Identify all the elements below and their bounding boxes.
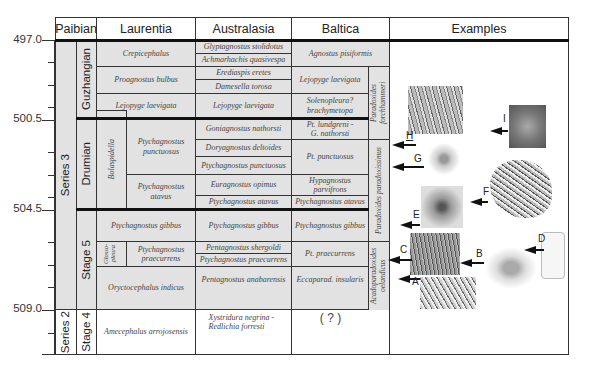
label-e: E: [413, 209, 420, 220]
australasia-zone: Glyptagnostus stolidotus: [195, 40, 292, 54]
arrow-shaft: [536, 249, 544, 251]
boundary-500-5: [76, 117, 369, 120]
arrowhead-icon: [392, 163, 404, 171]
zone-label: Pt. lundgreni - G. nathorsti: [303, 120, 358, 138]
zone-label: Pt. punctuosus: [306, 152, 353, 161]
arrowhead-icon: [398, 275, 410, 283]
stage-drumian: Drumian: [76, 118, 97, 209]
zone-label: Proagnostus bulbus: [114, 75, 178, 84]
age-label-504-5: 504.5: [2, 202, 42, 214]
zone-label: Pentagnostus anabarensis: [202, 275, 286, 284]
baltica-superzone-paradoxissimus: Paradoxides paradoxissimus: [368, 139, 390, 242]
header-australasia-label: Australasia: [213, 22, 275, 36]
arrow-g: [392, 163, 424, 171]
tick: [42, 310, 55, 311]
laurentia-zone-ptychagnostus-atavus: Ptychagnostus atavus: [126, 174, 196, 209]
age-label-500-5: 500.5: [2, 112, 42, 124]
tick: [48, 287, 55, 288]
label-a: A: [412, 276, 419, 287]
zone-label: Ptychagnostus praecurrens: [200, 255, 287, 264]
baltica-zone-unknown: ( ? ): [291, 309, 390, 355]
laurentia-zone-ptychagnostus-praecurrens: Ptychagnostus praecurrens: [126, 241, 196, 267]
zone-label: Ptychagnostus punctuosus: [129, 137, 193, 155]
arrowhead-icon: [490, 127, 502, 135]
arrow-shaft: [404, 144, 416, 146]
laurentia-zone-amecephalus-arrojosensis: Amecephalus arrojosensis: [96, 309, 196, 355]
australasia-zone: Ptychagnostus gibbus: [195, 209, 292, 242]
tick: [48, 175, 55, 176]
header-paibian: Paibian: [55, 17, 97, 40]
arrow-shaft: [502, 130, 508, 132]
laurentia-zone-bolaspidella: Bolaspidella: [96, 110, 127, 209]
zone-label: Lejopyge laevigata: [213, 101, 274, 110]
arrow-shaft: [472, 262, 484, 264]
label-i: I: [503, 113, 506, 124]
tick: [42, 210, 55, 211]
label-g: G: [414, 153, 422, 164]
stage-guzhangian: Guzhangian: [76, 40, 97, 118]
zone-label: Glosso-pleura: [102, 242, 122, 266]
laurentia-zone-ptychagnostus-gibbus: Ptychagnostus gibbus: [96, 209, 196, 242]
arrow-f: [470, 198, 488, 206]
arrow-h: [392, 141, 416, 149]
series-3-label: Series 3: [59, 154, 72, 196]
zone-label: Glyptagnostus stolidotus: [204, 42, 283, 51]
zone-label: Ptychagnostus gibbus: [209, 221, 279, 230]
australasia-zone: Ptychagnostus punctuosus: [195, 156, 292, 175]
baltica-zone: Pt. lundgreni - G. nathorsti: [291, 118, 369, 140]
zone-label: Pentagnostus shergoldi: [206, 243, 281, 252]
arrowhead-icon: [400, 221, 412, 229]
zone-label: Ptychagnostus punctuosus: [201, 161, 286, 170]
fossil-image-forchhammeri: [408, 86, 463, 134]
zone-label: Achmarhachis quasivespa: [202, 55, 286, 64]
arrow-b: [460, 259, 484, 267]
australasia-zone: Pentagnostus anabarensis: [195, 266, 292, 294]
label-c: C: [400, 244, 407, 255]
zone-label: Oryctocephalus indicus: [108, 283, 184, 292]
australasia-zone: Ptychagnostus praecurrens: [195, 253, 292, 267]
baltica-zone: Ptychagnostus atavus: [291, 195, 369, 209]
laurentia-zone-glossopleura: Glosso-pleura: [96, 241, 127, 267]
australasia-zone: Doryagnostus deltoides: [195, 139, 292, 157]
zone-label: Pt. praecurrens: [305, 249, 355, 258]
arrow-shaft: [412, 224, 420, 226]
australasia-zone: Erediaspis eretes: [195, 66, 292, 80]
superzone-label: Acadoparadoxides oelandicus: [370, 243, 387, 309]
arrow-shaft: [404, 166, 424, 168]
age-label-509: 509.0: [2, 302, 42, 314]
fossil-image-c: [410, 233, 460, 275]
arrow-i: [490, 127, 508, 135]
baltica-zone: Hypagnostus parvifrons: [291, 174, 369, 196]
fossil-image-a: [420, 277, 476, 309]
laurentia-zone-crepicephalus: Crepicephalus: [96, 40, 196, 67]
zone-label: Agnostus pisiformis: [309, 49, 372, 58]
stage-4: Stage 4: [76, 309, 97, 355]
laurentia-zone-ptychagnostus-punctuosus: Ptychagnostus punctuosus: [126, 118, 196, 175]
boundary-509: [55, 309, 369, 310]
australasia-zone: Xystridura negrina - Redlichia forresti: [195, 309, 292, 355]
zone-label: Crepicephalus: [123, 49, 169, 58]
zone-label: Ptychagnostus gibbus: [111, 221, 181, 230]
baltica-zone: Pt. praecurrens: [291, 241, 369, 267]
boundary-497: [55, 39, 569, 42]
fossil-image-g: [428, 140, 460, 178]
header-paibian-label: Paibian: [55, 22, 97, 36]
tick: [48, 197, 55, 198]
zone-label: Hypagnostus parvifrons: [294, 176, 366, 194]
arrow-shaft: [400, 259, 412, 261]
stage-5: Stage 5: [76, 209, 97, 310]
arrow-e: [400, 221, 420, 229]
label-f: F: [483, 186, 489, 197]
header-laurentia-label: Laurentia: [120, 22, 172, 36]
fossil-image-e: [421, 186, 463, 228]
header-australasia: Australasia: [195, 17, 292, 40]
stage-guzhangian-label: Guzhangian: [80, 48, 93, 110]
zone-label: Ptychagnostus atavus: [295, 197, 365, 206]
label-d: D: [538, 233, 545, 244]
australasia-zone: Achmarhachis quasivespa: [195, 53, 292, 67]
zone-label: Erediaspis eretes: [216, 68, 271, 77]
boundary-504-5: [76, 208, 369, 211]
baltica-superzone-oelandicus: Acadoparadoxides oelandicus: [368, 241, 390, 310]
zone-label: Doryagnostus deltoides: [206, 143, 282, 152]
laurentia-zone-proagnostus-bulbus: Proagnostus bulbus: [96, 66, 196, 94]
